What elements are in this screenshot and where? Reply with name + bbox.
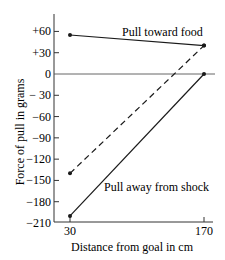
x-tick-label: 30 [64,224,76,238]
series-line [70,46,204,174]
y-tick-label: +60 [32,24,51,38]
y-tick-label: +30 [32,46,51,60]
y-tick-label: −180 [26,195,51,209]
line-chart: +60+300− 30−60−90−120−150−180−210 30170 … [0,0,225,260]
x-axis-title: Distance from goal in cm [71,240,194,254]
data-point [202,72,206,76]
x-tick-label: 170 [195,224,213,238]
y-tick-label: −90 [32,131,51,145]
series-label-food: Pull toward food [122,25,203,39]
y-tick-label: −120 [26,152,51,166]
data-point [68,214,72,218]
y-tick-label: −210 [26,216,51,230]
y-tick-label: − 30 [29,88,51,102]
y-tick-label: 0 [45,67,51,81]
data-point [68,33,72,37]
y-axis-title: Force of pull in grams [13,78,27,185]
x-ticks: 30170 [64,217,213,238]
y-tick-label: −150 [26,173,51,187]
data-point [68,171,72,175]
data-point [202,44,206,48]
y-tick-label: −60 [32,110,51,124]
series-label-shock: Pull away from shock [104,180,209,194]
series-line [70,74,204,216]
